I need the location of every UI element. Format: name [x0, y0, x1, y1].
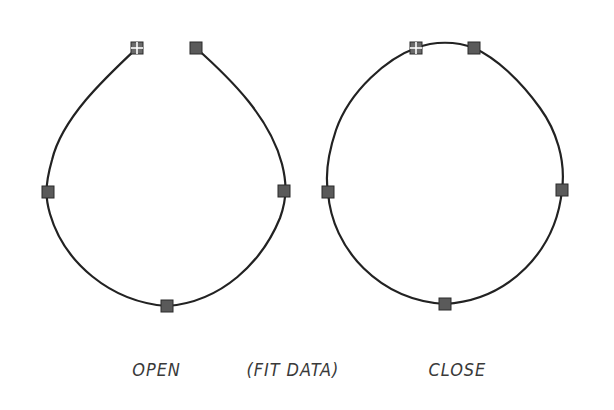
grip-icon[interactable] — [322, 186, 334, 198]
open-spline-curve[interactable] — [47, 48, 286, 306]
fit-data-label: (FIT DATA) — [246, 360, 339, 380]
open-label: OPEN — [132, 360, 181, 380]
grip-icon[interactable] — [468, 42, 480, 54]
grip-icon[interactable] — [439, 298, 451, 310]
start-grip-icon[interactable] — [131, 42, 143, 54]
start-grip-icon[interactable] — [410, 42, 422, 54]
grip-icon[interactable] — [42, 186, 54, 198]
grip-icon[interactable] — [190, 42, 202, 54]
closed-spline-curve[interactable] — [327, 43, 563, 304]
closed-spline-group — [322, 42, 568, 310]
spline-diagram — [0, 0, 614, 410]
close-label: CLOSE — [429, 360, 487, 380]
grip-icon[interactable] — [161, 300, 173, 312]
open-spline-group — [42, 42, 290, 312]
grip-icon[interactable] — [556, 184, 568, 196]
grip-icon[interactable] — [278, 185, 290, 197]
